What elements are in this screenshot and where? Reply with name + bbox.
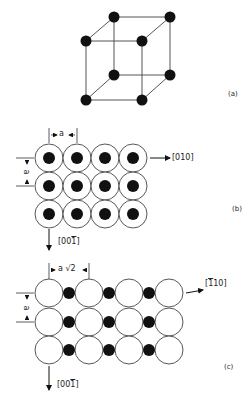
b-dimension-horizontal: a — [59, 130, 64, 138]
b-dimension-vertical: a — [22, 170, 30, 175]
b-direction-right: [010] — [172, 154, 194, 162]
c-direction-down-pre: [00 — [57, 380, 70, 389]
c-direction-down: [001] — [57, 381, 79, 389]
panel-label-a: (a) — [228, 91, 238, 98]
cube-diagram — [86, 17, 170, 100]
b-direction-down-post: ] — [76, 237, 79, 246]
crystal-diagram — [0, 0, 250, 403]
b-direction-down-pre: [00 — [58, 237, 71, 246]
grid-c — [16, 263, 203, 364]
grid-b — [16, 128, 170, 228]
c-direction-down-post: ] — [75, 380, 78, 389]
c-dimension-horizontal: a √2 — [58, 265, 76, 273]
panel-label-b: (b) — [232, 206, 242, 213]
panel-label-c: (c) — [224, 364, 233, 371]
cube-atoms — [81, 12, 176, 106]
b-direction-down: [001] — [58, 238, 80, 246]
c-direction-right: [110] — [205, 280, 227, 288]
c-dimension-vertical: a — [22, 306, 30, 311]
c-direction-right-post: 10] — [213, 279, 226, 288]
